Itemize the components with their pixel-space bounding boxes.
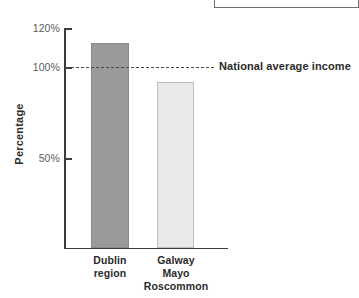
x-category-label-dublin-line2: region bbox=[74, 267, 146, 280]
x-axis-line bbox=[64, 248, 228, 250]
y-tick-label-50: 50% bbox=[39, 152, 60, 164]
y-axis-line bbox=[64, 28, 66, 249]
y-tick-120 bbox=[65, 28, 72, 30]
x-category-label-gmr: Galway Mayo Roscommon bbox=[138, 254, 214, 293]
bar-dublin-region bbox=[91, 43, 129, 248]
x-category-label-gmr-line3: Roscommon bbox=[138, 280, 214, 293]
x-category-label-dublin-line1: Dublin bbox=[74, 254, 146, 267]
bar-galway-mayo-roscommon bbox=[157, 82, 194, 248]
national-average-dashed-line bbox=[66, 67, 214, 68]
y-tick-50 bbox=[65, 158, 72, 160]
x-category-label-gmr-line2: Mayo bbox=[138, 267, 214, 280]
y-axis-title: Percentage bbox=[13, 89, 25, 179]
national-average-label: National average income bbox=[219, 60, 351, 72]
y-tick-label-100: 100% bbox=[33, 61, 60, 73]
y-tick-label-120: 120% bbox=[33, 22, 60, 34]
x-category-label-gmr-line1: Galway bbox=[138, 254, 214, 267]
x-category-label-dublin: Dublin region bbox=[74, 254, 146, 280]
